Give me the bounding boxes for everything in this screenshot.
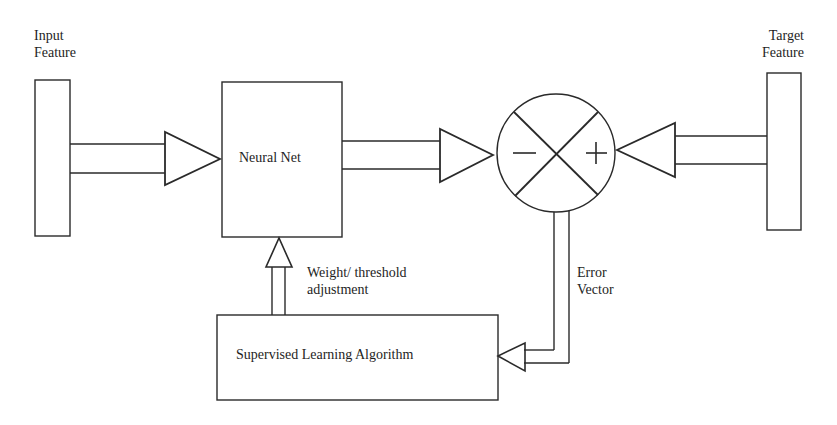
target-feature-bar <box>767 73 801 230</box>
error-vector-arrow <box>498 211 569 371</box>
input-feature-bar <box>35 80 70 236</box>
error-label-line1: Error <box>577 264 614 281</box>
diagram-canvas <box>0 0 837 425</box>
target-label-line1: Target <box>752 27 804 44</box>
error-vector-label: Error Vector <box>577 264 614 298</box>
input-label-line1: Input <box>34 27 76 44</box>
weight-adjustment-label: Weight/ threshold adjustment <box>307 264 407 298</box>
target-arrow <box>617 123 767 177</box>
input-feature-label: Input Feature <box>34 27 76 61</box>
input-label-line2: Feature <box>34 44 76 61</box>
neural-net-label: Neural Net <box>239 149 301 166</box>
weight-adjustment-arrow <box>266 238 292 315</box>
target-feature-label: Target Feature <box>752 27 804 61</box>
weight-label-line2: adjustment <box>307 281 407 298</box>
output-arrow <box>342 129 493 182</box>
comparator-circle <box>497 94 615 212</box>
weight-label-line1: Weight/ threshold <box>307 264 407 281</box>
input-arrow <box>70 132 220 185</box>
supervised-learning-label: Supervised Learning Algorithm <box>236 346 413 363</box>
target-label-line2: Feature <box>752 44 804 61</box>
error-label-line2: Vector <box>577 281 614 298</box>
